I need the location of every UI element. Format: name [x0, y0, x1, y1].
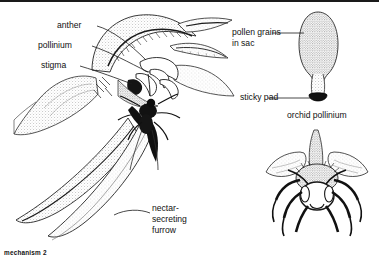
pollinium-detail: [268, 12, 338, 101]
label-sticky-pad: sticky pad: [240, 92, 278, 103]
label-pollinium: pollinium: [38, 40, 72, 51]
label-pollen-grains-line2: in sac: [232, 38, 254, 49]
label-nectar-furrow-line2: secreting: [152, 214, 187, 225]
label-nectar-furrow-line3: furrow: [152, 225, 176, 236]
label-stigma: stigma: [41, 60, 66, 71]
caption-orchid-pollinium: orchid pollinium: [287, 110, 347, 120]
bee-front-view: [266, 130, 368, 236]
label-pollen-grains-line1: pollen grains: [232, 27, 281, 38]
sticky-pad-shape: [309, 93, 327, 101]
label-anther: anther: [57, 20, 81, 31]
figure-caption: mechanism 2: [4, 248, 47, 259]
label-nectar-furrow-line1: nectar-: [152, 203, 179, 214]
figure-canvas: anther pollinium stigma nectar- secretin…: [0, 0, 379, 261]
leader-furrow: [114, 210, 150, 215]
